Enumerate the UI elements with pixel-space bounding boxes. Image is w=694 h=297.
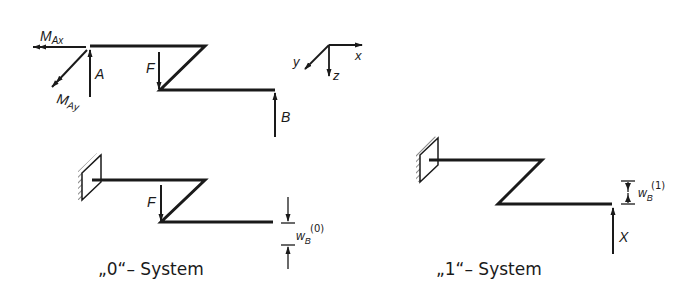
deflection-label: wB: [296, 229, 311, 246]
deflection-superscript: (1): [651, 180, 665, 191]
moment-ax-label: MAx: [40, 28, 64, 46]
moment-ay-label: MAy: [55, 90, 82, 113]
deflection-marker: [281, 197, 295, 269]
system-0: F wB (0) „0“– System: [77, 153, 324, 279]
deflection-marker: [621, 181, 635, 204]
axis-y-label: y: [292, 54, 301, 69]
axis-x-label: x: [354, 48, 362, 63]
free-body-system: MAx MAy A F B: [33, 28, 290, 137]
system-1-caption: „1“– System: [436, 259, 542, 279]
reaction-a-label: A: [94, 66, 104, 82]
diagram-canvas: MAx MAy A F B x y z F: [0, 0, 694, 297]
redundant-x-label: X: [618, 229, 629, 245]
force-f-label: F: [147, 194, 157, 210]
system-0-caption: „0“– System: [98, 259, 204, 279]
axis-z-label: z: [332, 68, 340, 83]
fixed-support-icon: [77, 153, 101, 202]
coordinate-axes: x y z: [292, 45, 362, 83]
beam-structure: [90, 46, 275, 90]
axis-y-arrow: [305, 45, 329, 69]
deflection-superscript: (0): [310, 223, 324, 234]
beam-structure: [92, 180, 273, 222]
force-f-label: F: [146, 60, 156, 76]
system-1: X wB (1) „1“– System: [416, 136, 665, 279]
beam-structure: [429, 160, 612, 204]
reaction-b-label: B: [281, 109, 290, 125]
moment-ay-arrow: [52, 50, 87, 87]
